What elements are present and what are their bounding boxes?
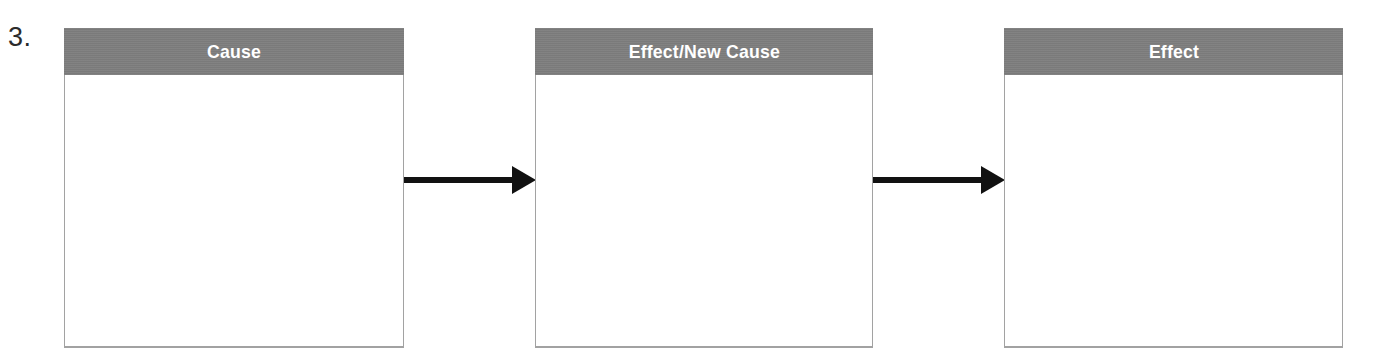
chain-box-effect: Effect [1004,28,1343,348]
box-header-label-effect-new-cause: Effect/New Cause [628,42,779,61]
arrow-effect-new-cause-to-effect [873,166,1005,194]
box-header-effect-new-cause: Effect/New Cause [535,28,873,75]
box-header-effect: Effect [1004,28,1343,75]
box-header-label-cause: Cause [207,42,261,61]
box-body-effect[interactable] [1004,75,1343,348]
cause-effect-chain-worksheet: 3. Cause Effect/New Cause Effect [0,0,1393,363]
box-body-effect-new-cause[interactable] [535,75,873,348]
chain-box-effect-new-cause: Effect/New Cause [535,28,873,348]
box-header-cause: Cause [64,28,404,75]
arrow-cause-to-effect-new-cause [404,166,536,194]
box-header-label-effect: Effect [1148,42,1198,61]
chain-box-cause: Cause [64,28,404,348]
item-number: 3. [8,24,32,51]
box-body-cause[interactable] [64,75,404,348]
